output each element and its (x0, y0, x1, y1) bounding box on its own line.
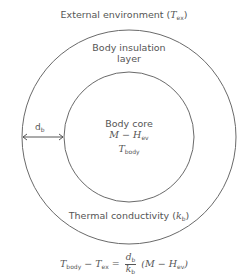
heat-equation: Tbody − Tex = db kb (M − Hev) (0, 253, 248, 276)
eq-frac-den-sub: b (131, 268, 135, 275)
insulation-line1: Body insulation (0, 42, 248, 53)
external-symbol-sub: ex (177, 14, 184, 21)
insulation-line2: layer (0, 53, 248, 64)
core-heat-sub: ev (141, 134, 148, 141)
conductivity-label: Thermal conductivity (kb) (0, 210, 248, 224)
eq-rhs: (M − H (141, 258, 177, 269)
eq-rhs-close: ) (184, 258, 188, 269)
external-environment-label: External environment (Tex) (0, 9, 248, 23)
external-text: External environment (61, 9, 164, 20)
eq-minus: − (81, 258, 95, 269)
eq-frac-num-sub: b (131, 256, 135, 263)
thickness-sub: b (41, 126, 45, 133)
thickness-label: db (35, 122, 45, 135)
eq-equals: = (109, 258, 123, 269)
eq-t-ex-sub: ex (102, 263, 109, 270)
core-temp: Tbody (0, 143, 248, 157)
eq-frac-den: kb (125, 265, 137, 276)
core-heat-expr: M − H (109, 129, 141, 140)
eq-t-body-sub: body (66, 263, 81, 270)
conductivity-sub: b (182, 215, 186, 222)
core-temp-sub: body (125, 148, 140, 155)
eq-fraction: db kb (125, 253, 137, 276)
conductivity-text: Thermal conductivity (69, 210, 169, 221)
insulation-layer-label: Body insulation layer (0, 42, 248, 64)
